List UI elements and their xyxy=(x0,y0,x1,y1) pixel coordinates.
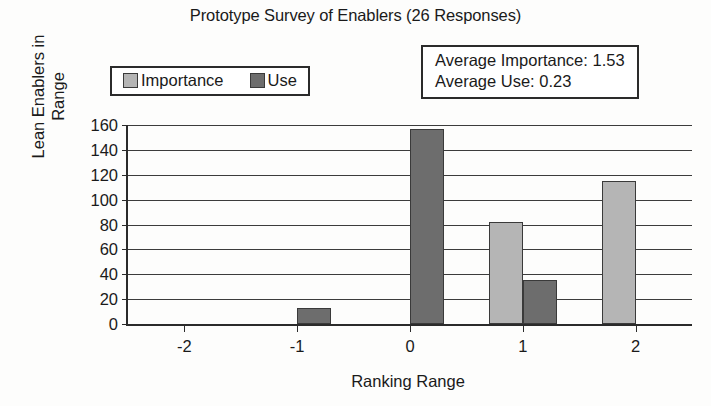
x-axis-tick-label: -1 xyxy=(290,337,305,356)
y-axis-tick-mark xyxy=(122,324,128,325)
bar-importance-2 xyxy=(602,181,636,324)
x-axis-tick-label: 0 xyxy=(405,337,414,356)
bar-use-1 xyxy=(523,280,557,324)
y-axis-tick-label: 160 xyxy=(90,116,118,135)
x-axis-tick-label: 1 xyxy=(518,337,527,356)
y-axis-title-line-2: Range xyxy=(49,35,69,159)
y-axis-title: Lean Enablers in Range xyxy=(14,0,84,196)
y-axis-tick-mark xyxy=(122,200,128,201)
y-axis-tick-mark xyxy=(122,274,128,275)
plot-wrapper: 020406080100120140160-2-1012 xyxy=(0,0,711,406)
gridline xyxy=(128,125,692,126)
y-axis-tick-mark xyxy=(122,150,128,151)
y-axis-tick-label: 100 xyxy=(90,190,118,209)
y-axis-tick-mark xyxy=(122,249,128,250)
plot-area: 020406080100120140160-2-1012 xyxy=(126,125,692,326)
x-axis-tick-mark xyxy=(410,324,411,332)
x-axis-tick-mark xyxy=(184,324,185,332)
x-axis-tick-label: -2 xyxy=(177,337,192,356)
x-axis-tick-mark xyxy=(523,324,524,332)
x-axis-tick-mark xyxy=(297,324,298,332)
y-axis-tick-mark xyxy=(122,225,128,226)
y-axis-tick-mark xyxy=(122,125,128,126)
y-axis-title-line-1: Lean Enablers in xyxy=(29,35,49,159)
bar-use-neg1 xyxy=(297,308,331,324)
bar-use-0 xyxy=(410,129,444,324)
bar-importance-1 xyxy=(489,222,523,324)
x-axis-title: Ranking Range xyxy=(126,372,690,391)
y-axis-tick-label: 20 xyxy=(100,290,118,309)
x-axis-tick-mark xyxy=(636,324,637,332)
x-axis-tick-label: 2 xyxy=(631,337,640,356)
y-axis-tick-mark xyxy=(122,175,128,176)
y-axis-tick-mark xyxy=(122,299,128,300)
y-axis-tick-label: 0 xyxy=(109,315,118,334)
y-axis-tick-label: 140 xyxy=(90,140,118,159)
y-axis-tick-label: 40 xyxy=(100,265,118,284)
y-axis-tick-label: 120 xyxy=(90,165,118,184)
y-axis-tick-label: 60 xyxy=(100,240,118,259)
y-axis-tick-label: 80 xyxy=(100,215,118,234)
chart-figure: Prototype Survey of Enablers (26 Respons… xyxy=(0,0,711,406)
